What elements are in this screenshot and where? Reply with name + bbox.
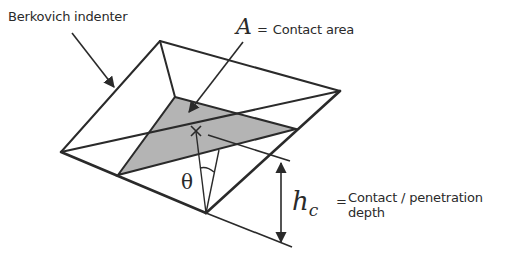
depth-description: Contact / penetration depth (348, 190, 483, 220)
depth-description-line2: depth (348, 205, 483, 220)
area-description: Contact area (273, 22, 354, 37)
contact-area-region (118, 97, 296, 175)
berkovich-diagram: Berkovich indenter A = Contact area θ hc… (0, 0, 530, 259)
depth-symbol: h (292, 186, 309, 216)
contact-depth-label: hc (292, 186, 318, 216)
area-equals: = (257, 22, 268, 37)
indenter-label: Berkovich indenter (8, 9, 127, 24)
depth-subscript: c (309, 200, 319, 220)
contact-area-label: A = Contact area (236, 14, 354, 39)
depth-description-line1: Contact / penetration (348, 190, 483, 205)
contact-area-pointer-arrow (189, 42, 243, 112)
area-symbol: A (236, 14, 252, 39)
theta-label: θ (181, 170, 193, 194)
indenter-pointer-arrow (72, 33, 114, 87)
depth-equals: = (336, 194, 347, 209)
